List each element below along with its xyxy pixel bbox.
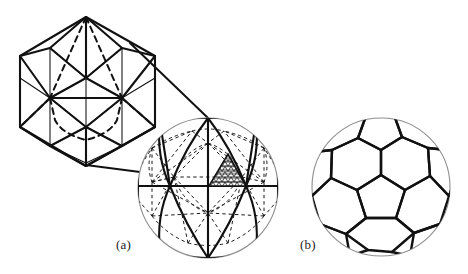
geodesic-sphere <box>138 110 278 266</box>
icosahedron-subdivision-edges <box>20 29 155 163</box>
ball-outline <box>312 118 450 256</box>
figure-page: (a) (b) <box>0 0 468 274</box>
caption-a: (a) <box>116 237 131 253</box>
truncated-icosahedron-sphere <box>302 105 459 263</box>
icosahedron-wireframe <box>20 17 155 166</box>
figure-canvas <box>0 0 468 274</box>
caption-b: (b) <box>300 237 316 253</box>
